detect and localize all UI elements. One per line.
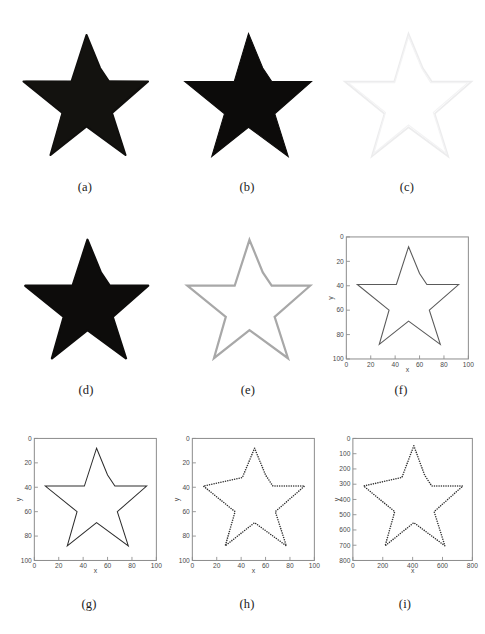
data-point — [225, 542, 227, 544]
data-point — [227, 480, 229, 482]
data-point — [229, 541, 231, 543]
svg-text:600: 600 — [339, 526, 350, 533]
data-point — [240, 533, 242, 535]
data-point — [227, 505, 229, 507]
data-point — [302, 487, 304, 489]
data-point — [415, 449, 417, 451]
data-point — [405, 528, 407, 530]
data-point — [386, 480, 388, 482]
data-point — [289, 498, 291, 500]
plot-h: 0 20 40 60 80 100 0 20 40 60 80 100 — [172, 428, 322, 576]
data-point — [443, 541, 445, 543]
data-point — [254, 447, 256, 449]
data-point — [247, 465, 249, 467]
panel-d — [12, 228, 160, 376]
data-point — [244, 530, 246, 532]
svg-text:40: 40 — [182, 484, 190, 491]
data-point — [457, 485, 459, 487]
data-point — [249, 458, 251, 460]
data-point — [419, 460, 421, 462]
data-point — [403, 530, 405, 532]
data-point — [223, 502, 225, 504]
svg-text:0: 0 — [28, 435, 32, 442]
svg-text:40: 40 — [336, 282, 344, 289]
star-image-d — [12, 228, 160, 376]
data-point — [436, 520, 438, 522]
data-point — [220, 481, 222, 483]
data-point — [375, 483, 377, 485]
svg-text:40: 40 — [24, 484, 32, 491]
data-point — [387, 537, 389, 539]
data-point — [232, 479, 234, 481]
plot-g-ylabel: y — [15, 497, 23, 501]
data-point — [389, 507, 391, 509]
data-point — [415, 452, 417, 454]
data-point — [434, 485, 436, 487]
data-point — [266, 531, 268, 533]
data-point — [389, 528, 391, 530]
data-point — [420, 465, 422, 467]
data-point — [406, 465, 408, 467]
data-point — [420, 463, 422, 465]
caption-b: (b) — [172, 180, 322, 195]
data-point — [431, 485, 433, 487]
data-point — [418, 525, 420, 527]
data-point — [293, 495, 295, 497]
data-point — [279, 526, 281, 528]
data-point — [234, 478, 236, 480]
data-point — [234, 511, 236, 513]
data-point — [228, 533, 230, 535]
data-point — [400, 477, 402, 479]
data-point — [264, 473, 266, 475]
data-point — [286, 501, 288, 503]
data-point — [456, 491, 458, 493]
data-point — [233, 515, 235, 517]
data-point — [429, 482, 431, 484]
data-point — [272, 485, 274, 487]
data-point — [438, 541, 440, 543]
data-point — [459, 488, 461, 490]
data-point — [227, 537, 229, 539]
data-point — [389, 530, 391, 532]
data-point — [391, 509, 393, 511]
data-point — [407, 527, 409, 529]
data-point — [213, 483, 215, 485]
svg-text:0: 0 — [32, 562, 36, 569]
data-point — [262, 528, 264, 530]
svg-text:20: 20 — [336, 258, 344, 265]
data-point — [262, 467, 264, 469]
data-point — [291, 485, 293, 487]
data-point — [394, 537, 396, 539]
data-point — [233, 538, 235, 540]
data-point — [256, 452, 258, 454]
data-point — [368, 484, 370, 486]
data-point — [246, 528, 248, 530]
svg-text:0: 0 — [340, 233, 344, 240]
svg-text:80: 80 — [128, 562, 136, 569]
data-point — [231, 524, 233, 526]
data-point — [411, 452, 413, 454]
data-point — [298, 490, 300, 492]
data-point — [403, 471, 405, 473]
data-point — [259, 525, 261, 527]
data-point — [422, 528, 424, 530]
svg-text:100: 100 — [309, 562, 320, 569]
data-point — [377, 497, 379, 499]
data-point — [417, 456, 419, 458]
svg-text:60: 60 — [336, 306, 344, 313]
data-point — [366, 485, 368, 487]
data-point — [238, 534, 240, 536]
data-point — [445, 485, 447, 487]
panel-i: 0 200 400 600 800 0 100 200 300 4 — [330, 428, 480, 576]
caption-d: (d) — [12, 383, 160, 398]
data-point — [229, 531, 231, 533]
data-point — [293, 485, 295, 487]
data-point — [282, 535, 284, 537]
panel-g: 0 20 40 60 80 100 0 20 40 60 80 100 — [14, 428, 164, 576]
data-point — [266, 475, 268, 477]
svg-text:20: 20 — [24, 459, 32, 466]
data-point — [291, 496, 293, 498]
data-point — [408, 458, 410, 460]
data-point — [380, 500, 382, 502]
data-point — [243, 473, 245, 475]
